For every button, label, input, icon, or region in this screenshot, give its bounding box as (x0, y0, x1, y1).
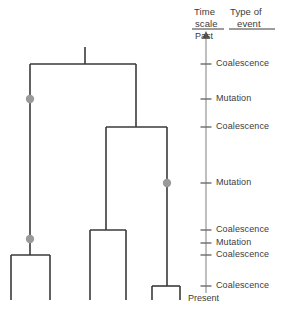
event-label: Coalescence (216, 224, 269, 234)
event-label: Coalescence (216, 121, 269, 131)
event-label: Mutation (216, 177, 251, 187)
type-of-event-header-line2: event (237, 18, 261, 29)
event-label: Coalescence (216, 280, 269, 290)
event-label: Mutation (216, 93, 251, 103)
mutation-right-lineage-dot (163, 179, 171, 187)
genealogy-tree (0, 0, 284, 313)
time-scale-header-line2: scale (195, 18, 218, 29)
time-scale-header-line1: Time (194, 6, 215, 17)
type-of-event-header-line1: Type of (230, 6, 262, 17)
mutation-left-upper-dot (26, 95, 34, 103)
axis-past-label: Past (195, 31, 213, 41)
event-label: Coalescence (216, 58, 269, 68)
event-label: Coalescence (216, 249, 269, 259)
mutation-left-lower-dot (26, 235, 34, 243)
event-label: Mutation (216, 237, 251, 247)
axis-present-label: Present (188, 293, 219, 303)
coalescent-tree-figure: Time scale Type of event Past Present Co… (0, 0, 284, 313)
